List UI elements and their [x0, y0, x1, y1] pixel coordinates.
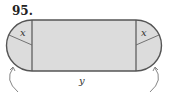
right-radius-label: x — [141, 27, 147, 38]
length-label: y — [78, 75, 85, 86]
track-diagram: x x y — [0, 0, 170, 92]
left-radius-label: x — [20, 27, 26, 38]
right-arrow-icon — [150, 68, 159, 92]
track-shape — [7, 20, 162, 71]
left-arrow-icon — [9, 68, 18, 92]
